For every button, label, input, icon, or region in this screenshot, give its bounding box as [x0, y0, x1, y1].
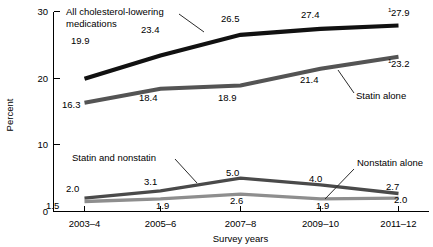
data-label-statin-and-nonstatin-2007-8: 5.0: [226, 167, 239, 178]
annotation-statin-alone: Statin alone: [338, 70, 406, 101]
y-tick-label-30: 30: [37, 6, 48, 17]
x-axis-title: Survey years: [213, 233, 269, 244]
data-label-nonstatin-alone-2009-10: 1.9: [316, 200, 329, 211]
data-label-all-meds-2007-8: 26.5: [221, 13, 240, 24]
series-lines-group: [85, 26, 399, 202]
data-label-statin-alone-2003-4: 16.3: [62, 99, 81, 110]
x-tick-label-2007-8: 2007–8: [225, 218, 257, 229]
x-tick-label-2003-4: 2003–4: [69, 218, 101, 229]
annotation-all-meds-line1: All cholesterol-lowering: [66, 6, 164, 17]
x-tick-label-2011-12: 2011–12: [380, 218, 416, 229]
data-label-statin-and-nonstatin-2003-4: 2.0: [66, 183, 79, 194]
data-label-statin-and-nonstatin-2011-12: 2.7: [386, 181, 399, 192]
y-tick-label-20: 20: [37, 73, 48, 84]
y-tick-group: 0 10 20 30: [37, 6, 59, 217]
annotation-all-meds-line2: medications: [66, 18, 117, 29]
series-line-all-cholesterol-lowering-medications: [85, 26, 399, 79]
data-label-statin-alone-2007-8: 18.9: [218, 92, 237, 103]
annotation-statin-and-nonstatin-leader: [175, 159, 197, 183]
chart-figure: 0 10 20 30 Percent 2003–4 2005–6 2007–8 …: [0, 0, 433, 247]
data-label-all-meds-2003-4: 19.9: [71, 35, 90, 46]
data-label-nonstatin-alone-2003-4: 1.5: [46, 200, 59, 211]
annotation-nonstatin-alone-label: Nonstatin alone: [357, 157, 423, 168]
data-label-all-meds-2011-12: 27.9: [391, 7, 410, 18]
annotation-statin-and-nonstatin: Statin and nonstatin: [72, 152, 197, 183]
data-label-nonstatin-alone-2005-6: 1.9: [156, 200, 169, 211]
x-tick-label-2009-10: 2009–10: [302, 218, 339, 229]
data-label-statin-alone-2009-10: 21.4: [300, 74, 319, 85]
annotation-all-meds-leader: [179, 14, 204, 32]
data-label-nonstatin-alone-2007-8: 2.6: [230, 195, 243, 206]
annotation-statin-alone-leader: [338, 70, 354, 93]
data-label-all-meds-2009-10: 27.4: [301, 9, 320, 20]
annotation-statin-alone-label: Statin alone: [356, 90, 406, 101]
chart-canvas: 0 10 20 30 Percent 2003–4 2005–6 2007–8 …: [0, 0, 433, 247]
data-label-all-meds-2005-6: 23.4: [141, 24, 160, 35]
data-label-nonstatin-alone-2011-12: 2.0: [394, 194, 407, 205]
x-tick-group: 2003–4 2005–6 2007–8 2009–10 2011–12: [69, 206, 417, 230]
annotation-nonstatin-alone: Nonstatin alone: [325, 157, 423, 199]
data-label-statin-and-nonstatin-2009-10: 4.0: [309, 173, 322, 184]
y-axis-title: Percent: [4, 98, 15, 131]
data-label-statin-and-nonstatin-2005-6: 3.1: [144, 176, 157, 187]
annotation-statin-and-nonstatin-label: Statin and nonstatin: [72, 152, 156, 163]
axes-group: [54, 12, 429, 212]
y-tick-label-10: 10: [37, 139, 48, 150]
data-label-statin-alone-2005-6: 18.4: [139, 92, 158, 103]
annotation-nonstatin-alone-leader: [325, 169, 354, 199]
data-label-statin-alone-2011-12: 23.2: [391, 58, 410, 69]
annotation-all-meds: All cholesterol-lowering medications: [66, 6, 204, 32]
x-tick-label-2005-6: 2005–6: [145, 218, 177, 229]
